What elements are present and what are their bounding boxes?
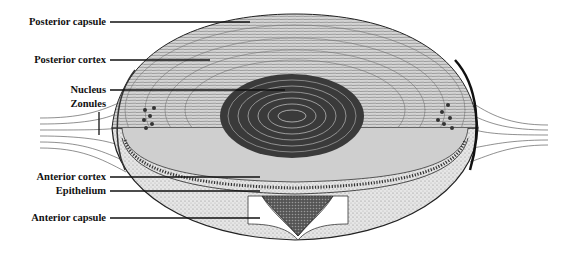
label-zonules: Zonules (70, 98, 106, 110)
label-nucleus: Nucleus (70, 84, 106, 96)
label-anterior-capsule: Anterior capsule (31, 212, 106, 224)
label-anterior-cortex: Anterior cortex (37, 171, 106, 183)
label-epithelium: Epithelium (56, 185, 106, 197)
label-posterior-capsule: Posterior capsule (29, 16, 106, 28)
label-posterior-cortex: Posterior cortex (34, 54, 106, 66)
zonules-right (468, 100, 548, 162)
nucleus-shape (220, 74, 364, 158)
